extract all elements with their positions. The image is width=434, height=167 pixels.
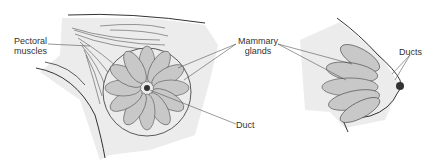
label-pectoral-line2: muscles <box>14 46 47 56</box>
side-view <box>300 18 404 132</box>
breast-anatomy-diagram <box>0 0 434 167</box>
label-ducts: Ducts <box>399 47 422 57</box>
label-mammary-line2: glands <box>238 46 278 56</box>
label-pectoral-line1: Pectoral <box>14 36 47 46</box>
nipple-side <box>396 82 404 90</box>
front-view <box>36 14 218 160</box>
nipple-front <box>144 85 150 91</box>
label-mammary-glands: Mammary glands <box>238 36 278 56</box>
label-mammary-line1: Mammary <box>238 36 278 46</box>
label-pectoral-muscles: Pectoral muscles <box>14 36 47 56</box>
label-duct: Duct <box>236 120 255 130</box>
